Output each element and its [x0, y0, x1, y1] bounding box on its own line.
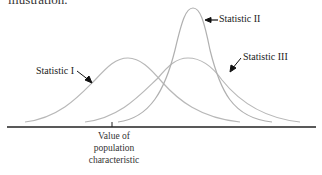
- arrow-icon: [77, 71, 92, 83]
- label-statistic-3: Statistic III: [243, 51, 288, 62]
- axis-label: Value of population characteristic: [82, 130, 146, 166]
- label-statistic-1: Statistic I: [36, 65, 74, 76]
- label-statistic-2: Statistic II: [219, 13, 260, 24]
- arrow-icon: [230, 58, 241, 72]
- arrow-icon: [205, 18, 218, 23]
- curve-statistic-3: [85, 58, 300, 122]
- sampling-distribution-diagram: [0, 0, 322, 175]
